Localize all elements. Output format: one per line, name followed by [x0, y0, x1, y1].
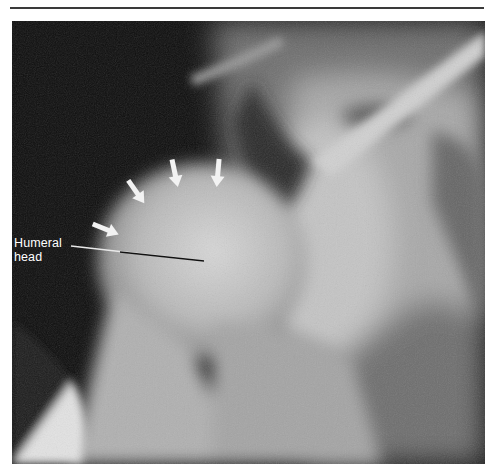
label-line-1: Humeral: [14, 236, 62, 250]
humeral-head-label: Humeral head: [14, 236, 62, 264]
top-rule: [10, 7, 484, 9]
radiograph-render: [12, 21, 485, 464]
label-line-2: head: [14, 250, 62, 264]
xray-image: [12, 21, 485, 464]
